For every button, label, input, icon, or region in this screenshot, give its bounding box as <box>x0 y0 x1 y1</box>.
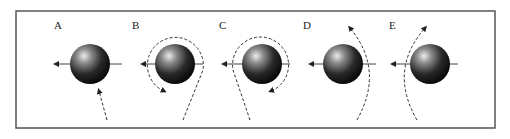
panel-label-b: B <box>132 19 139 31</box>
panel-a: A <box>54 19 122 120</box>
panel-label-d: D <box>303 19 311 31</box>
sphere <box>323 44 363 84</box>
diagram-canvas: A B C D E <box>0 0 510 139</box>
panel-label-a: A <box>54 19 62 31</box>
sphere <box>155 44 195 84</box>
panel-label-e: E <box>389 19 396 31</box>
sphere <box>410 44 450 84</box>
sphere <box>70 44 110 84</box>
panel-b: B <box>132 19 203 120</box>
panel-c: C <box>219 19 290 120</box>
panel-e: E <box>389 19 458 120</box>
sphere <box>242 44 282 84</box>
panel-label-c: C <box>219 19 226 31</box>
panel-d: D <box>303 19 376 120</box>
dashed-trajectory <box>99 91 107 120</box>
